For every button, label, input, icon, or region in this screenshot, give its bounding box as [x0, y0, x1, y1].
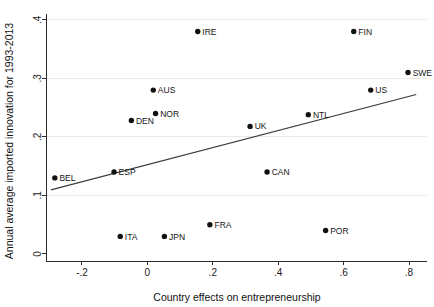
- x-tick-label: 0: [145, 267, 151, 278]
- data-point-marker: [118, 234, 123, 239]
- data-point-label: FIN: [358, 27, 372, 37]
- data-point-label: NTL: [313, 110, 329, 120]
- data-point: US: [368, 85, 387, 95]
- gridlines-group: [46, 20, 427, 196]
- scatter-plot-figure: 0.1.2.3.4 -.20.2.4.6.8 BELESPITADENAUSNO…: [0, 0, 434, 307]
- data-point-marker: [351, 29, 356, 34]
- data-point: AUS: [151, 85, 176, 95]
- data-point-marker: [129, 118, 134, 123]
- x-tick-label: .2: [209, 267, 218, 278]
- data-point: JPN: [162, 232, 185, 242]
- data-point-label: US: [375, 85, 387, 95]
- x-axis-ticks-group: -.20.2.4.6.8: [76, 261, 413, 278]
- data-point-label: DEN: [136, 116, 154, 126]
- data-point: POR: [323, 226, 349, 236]
- x-tick-label: .4: [274, 267, 283, 278]
- data-point-marker: [195, 29, 200, 34]
- regression-line-group: [51, 94, 416, 189]
- y-tick-label: .4: [32, 15, 43, 24]
- data-point-marker: [405, 70, 410, 75]
- plot-axes-group: [46, 14, 427, 261]
- data-point: CAN: [264, 167, 289, 177]
- data-point-label: NOR: [160, 109, 179, 119]
- data-point: ITA: [118, 232, 138, 242]
- regression-fit-line: [51, 94, 416, 189]
- data-point: BEL: [52, 173, 76, 183]
- data-point-marker: [111, 169, 116, 174]
- y-axis-ticks-group: 0.1.2.3.4: [32, 15, 46, 257]
- data-point: ESP: [111, 167, 136, 177]
- data-points-group: BELESPITADENAUSNORJPNIREFRAUKCANNTLPORFI…: [52, 27, 432, 242]
- data-point-label: IRE: [202, 27, 217, 37]
- data-point: IRE: [195, 27, 217, 37]
- data-point-marker: [162, 234, 167, 239]
- y-axis-title: Annual average imported innovation for 1…: [3, 23, 15, 260]
- y-tick-label: .3: [32, 74, 43, 83]
- data-point-marker: [323, 228, 328, 233]
- x-tick-label: .6: [339, 267, 348, 278]
- y-tick-label: 0: [32, 251, 43, 257]
- x-axis-title: Country effects on entrepreneurship: [153, 291, 320, 303]
- data-point: FRA: [207, 220, 232, 230]
- x-tick-label: .8: [405, 267, 414, 278]
- data-point-marker: [52, 175, 57, 180]
- data-point-label: JPN: [169, 232, 185, 242]
- plot-canvas: 0.1.2.3.4 -.20.2.4.6.8 BELESPITADENAUSNO…: [0, 0, 434, 307]
- data-point: FIN: [351, 27, 372, 37]
- data-point: SWE: [405, 68, 432, 78]
- data-point: NOR: [153, 109, 179, 119]
- data-point-label: UK: [255, 121, 267, 131]
- data-point-marker: [153, 111, 158, 116]
- data-point-marker: [247, 124, 252, 129]
- data-point: UK: [247, 121, 266, 131]
- data-point-label: CAN: [272, 167, 290, 177]
- data-point-label: POR: [330, 226, 348, 236]
- data-point-marker: [151, 87, 156, 92]
- y-tick-label: .2: [32, 132, 43, 141]
- y-tick-label: .1: [32, 191, 43, 200]
- data-point-label: SWE: [413, 68, 433, 78]
- data-point-marker: [368, 87, 373, 92]
- data-point-label: ESP: [119, 167, 136, 177]
- data-point: NTL: [306, 110, 330, 120]
- x-tick-label: -.2: [76, 267, 88, 278]
- data-point-label: FRA: [214, 220, 231, 230]
- data-point: DEN: [129, 116, 154, 126]
- data-point-marker: [264, 169, 269, 174]
- data-point-marker: [207, 222, 212, 227]
- data-point-label: AUS: [158, 85, 176, 95]
- data-point-label: ITA: [125, 232, 138, 242]
- data-point-marker: [306, 112, 311, 117]
- data-point-label: BEL: [59, 173, 75, 183]
